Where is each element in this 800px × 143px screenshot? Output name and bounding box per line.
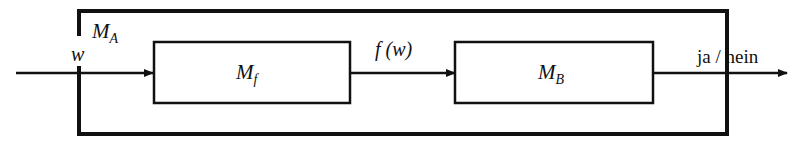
outer-machine-label: MA (91, 19, 119, 46)
input-label: w (71, 43, 85, 65)
intermediate-label: f (w) (375, 38, 413, 61)
reduction-diagram: MA w Mf f (w) MB ja / nein (0, 0, 800, 143)
output-label: ja / nein (696, 46, 759, 67)
